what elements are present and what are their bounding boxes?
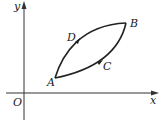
point-d-label: D (67, 32, 76, 43)
x-axis (6, 91, 159, 96)
origin-label: O (13, 97, 22, 108)
upper-arc-ADB (55, 23, 126, 78)
point-b-label: B (130, 18, 138, 29)
point-a-label: A (47, 77, 55, 88)
y-axis-label: y (14, 1, 20, 12)
y-axis (22, 1, 27, 120)
point-c-label: C (103, 61, 111, 72)
x-axis-label: x (150, 95, 156, 106)
